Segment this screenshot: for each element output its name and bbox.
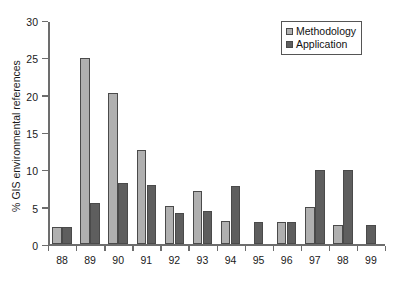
bar-chart: % GIS environmental references 051015202… bbox=[0, 0, 397, 286]
application-swatch-icon bbox=[286, 41, 293, 48]
bar-methodology-91 bbox=[137, 150, 147, 245]
bar-methodology-93 bbox=[193, 191, 203, 245]
y-tick-mark bbox=[42, 95, 48, 96]
x-tick-mark bbox=[329, 246, 330, 251]
x-tick-label-96: 96 bbox=[281, 254, 293, 266]
y-tick-label: 5 bbox=[32, 203, 38, 215]
x-tick-mark bbox=[385, 246, 386, 251]
plot-area: 051015202530 888990919293949596979899 bbox=[48, 22, 385, 246]
x-tick-label-94: 94 bbox=[225, 254, 237, 266]
x-tick-label-88: 88 bbox=[56, 254, 68, 266]
x-tick-mark bbox=[217, 246, 218, 251]
x-tick-mark bbox=[301, 246, 302, 251]
x-tick-label-93: 93 bbox=[197, 254, 209, 266]
y-tick-mark bbox=[42, 207, 48, 208]
x-tick-label-89: 89 bbox=[84, 254, 96, 266]
legend-label-application: Application bbox=[296, 38, 347, 51]
bar-application-94 bbox=[231, 186, 241, 244]
y-tick-label: 15 bbox=[26, 128, 38, 140]
bar-application-96 bbox=[287, 222, 297, 244]
x-tick-label-97: 97 bbox=[309, 254, 321, 266]
bar-application-98 bbox=[343, 170, 353, 245]
bar-application-89 bbox=[90, 203, 100, 245]
y-tick-mark bbox=[42, 170, 48, 171]
x-tick-label-90: 90 bbox=[112, 254, 124, 266]
y-axis-line bbox=[48, 22, 50, 246]
bar-methodology-90 bbox=[108, 93, 118, 245]
x-tick-mark bbox=[357, 246, 358, 251]
x-tick-label-92: 92 bbox=[169, 254, 181, 266]
bar-application-93 bbox=[203, 211, 213, 245]
bar-application-97 bbox=[315, 170, 325, 245]
x-tick-label-98: 98 bbox=[337, 254, 349, 266]
x-tick-mark bbox=[188, 246, 189, 251]
bar-methodology-88 bbox=[52, 227, 62, 244]
legend-item-application: Application bbox=[286, 38, 356, 51]
bar-application-92 bbox=[175, 213, 185, 244]
x-tick-mark bbox=[245, 246, 246, 251]
chart-legend: Methodology Application bbox=[281, 21, 362, 55]
x-tick-mark bbox=[132, 246, 133, 251]
x-tick-label-91: 91 bbox=[140, 254, 152, 266]
y-tick-label: 20 bbox=[26, 91, 38, 103]
bar-application-95 bbox=[254, 222, 264, 244]
x-tick-mark bbox=[273, 246, 274, 251]
y-tick-mark bbox=[42, 21, 48, 22]
y-tick-mark bbox=[42, 133, 48, 134]
bar-methodology-97 bbox=[305, 207, 315, 244]
bar-application-99 bbox=[366, 225, 376, 244]
x-tick-mark bbox=[104, 246, 105, 251]
x-tick-label-95: 95 bbox=[253, 254, 265, 266]
bar-application-91 bbox=[147, 185, 157, 244]
bar-methodology-96 bbox=[277, 222, 287, 244]
y-tick-label: 10 bbox=[26, 165, 38, 177]
y-tick-label: 30 bbox=[26, 16, 38, 28]
x-tick-mark bbox=[76, 246, 77, 251]
legend-label-methodology: Methodology bbox=[296, 25, 356, 38]
y-tick-label: 25 bbox=[26, 53, 38, 65]
bar-methodology-94 bbox=[221, 221, 231, 244]
y-axis-title: % GIS environmental references bbox=[10, 26, 22, 246]
x-tick-mark bbox=[48, 246, 49, 251]
bar-methodology-89 bbox=[80, 58, 90, 245]
x-tick-mark bbox=[160, 246, 161, 251]
bar-application-90 bbox=[118, 183, 128, 244]
y-tick-mark bbox=[42, 58, 48, 59]
legend-item-methodology: Methodology bbox=[286, 25, 356, 38]
y-tick-label: 0 bbox=[32, 240, 38, 252]
x-tick-label-99: 99 bbox=[365, 254, 377, 266]
methodology-swatch-icon bbox=[286, 28, 293, 35]
bar-methodology-92 bbox=[165, 206, 175, 244]
bar-methodology-98 bbox=[333, 225, 343, 244]
bar-application-88 bbox=[62, 227, 72, 244]
